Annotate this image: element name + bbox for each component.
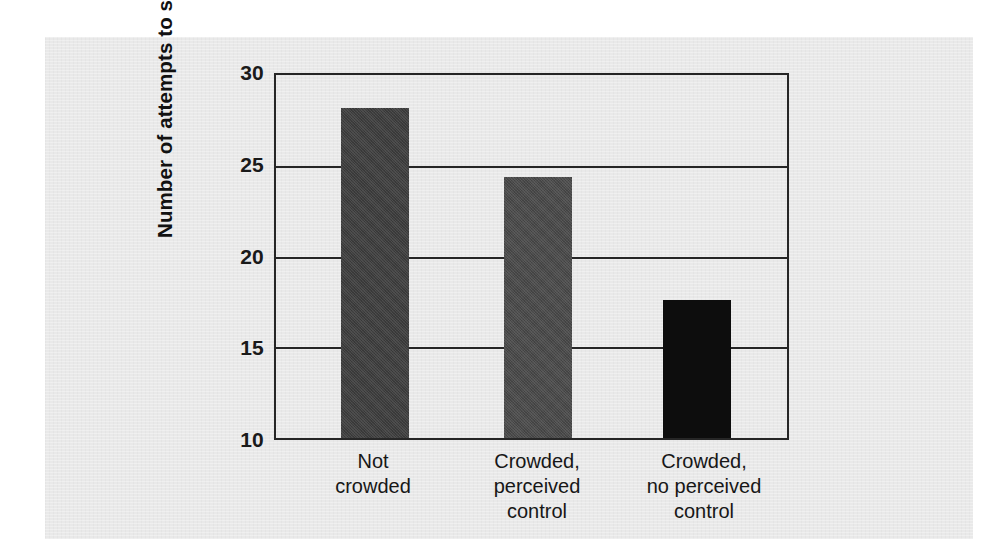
figure: Number of attempts to solve puzzles 30 2… — [0, 0, 1006, 558]
x-label-not-crowded: Not crowded — [303, 449, 443, 499]
y-tick-15: 15 — [240, 336, 264, 360]
plot-area — [274, 73, 789, 440]
bar-crowded-no-perceived-control — [663, 300, 731, 438]
y-axis-tick-labels: 30 25 20 15 10 — [218, 73, 264, 440]
y-axis-title: Number of attempts to solve puzzles — [145, 0, 185, 278]
y-tick-25: 25 — [240, 153, 264, 177]
y-tick-30: 30 — [240, 61, 264, 85]
y-tick-10: 10 — [240, 428, 264, 452]
x-label-crowded-no-perceived-control: Crowded, no perceived control — [619, 449, 789, 524]
bar-crowded-perceived-control — [504, 177, 572, 438]
bar-not-crowded — [341, 108, 409, 438]
x-label-crowded-perceived-control: Crowded, perceived control — [461, 449, 613, 524]
y-tick-20: 20 — [240, 245, 264, 269]
